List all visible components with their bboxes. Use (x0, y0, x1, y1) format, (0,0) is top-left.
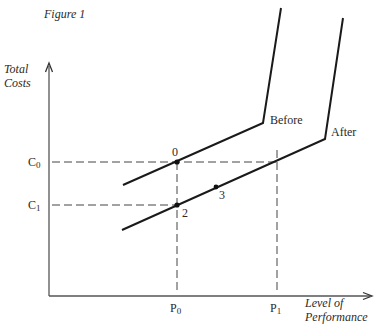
after-curve (122, 18, 343, 230)
y-tick-c1: C1 (28, 198, 41, 213)
cost-diagram: Figure 1 Total Costs Level of Performanc… (0, 0, 377, 327)
figure-container: Figure 1 Total Costs Level of Performanc… (0, 0, 377, 327)
y-axis-label-line2: Costs (4, 76, 31, 90)
point-0-marker (174, 159, 179, 164)
guide-lines (52, 150, 277, 294)
point-3-label: 3 (219, 188, 225, 202)
point-0-label: 0 (172, 145, 178, 159)
y-axis-label-line1: Total (4, 62, 29, 76)
x-axis-label-line2: Performance (304, 310, 368, 324)
after-label: After (331, 125, 356, 139)
x-tick-p0: P0 (170, 301, 182, 316)
before-curve (123, 8, 281, 185)
figure-title: Figure 1 (43, 7, 85, 21)
point-2-marker (174, 202, 179, 207)
before-label: Before (270, 113, 303, 127)
x-tick-p1: P1 (270, 301, 281, 316)
point-3-marker (214, 185, 219, 190)
x-axis-label-line1: Level of (304, 296, 345, 310)
y-tick-c0: C0 (28, 155, 41, 170)
point-2-label: 2 (182, 206, 188, 220)
y-axis (46, 63, 53, 296)
